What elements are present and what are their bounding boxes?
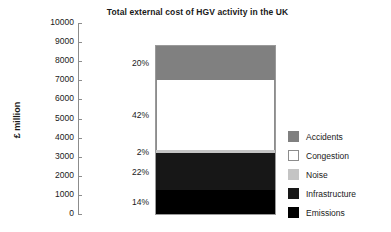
segment-percent-label: 42% <box>105 110 149 120</box>
y-axis-tick-mark <box>78 99 82 100</box>
y-axis-tick-label: 9000 <box>26 36 74 46</box>
legend-swatch-icon <box>288 150 299 161</box>
y-axis-tick-label: 2000 <box>26 170 74 180</box>
segment-percent-label: 20% <box>105 58 149 68</box>
y-axis-tick: 9000 <box>24 42 82 43</box>
bar-segment <box>156 80 275 151</box>
y-axis-tick: 5000 <box>24 119 82 120</box>
legend-label: Congestion <box>306 151 349 161</box>
legend-item[interactable]: Noise <box>288 165 356 184</box>
y-axis-tick: 1000 <box>24 195 82 196</box>
y-axis-tick: 10000 <box>24 23 82 24</box>
y-axis-tick: 3000 <box>24 157 82 158</box>
legend-item[interactable]: Emissions <box>288 203 356 222</box>
legend-swatch-icon <box>288 207 299 218</box>
legend-label: Emissions <box>306 208 345 218</box>
y-axis-label: £ million <box>12 90 22 150</box>
legend-swatch-icon <box>288 131 299 142</box>
y-axis-tick-mark <box>78 157 82 158</box>
legend-label: Accidents <box>306 132 343 142</box>
stacked-bar <box>156 46 275 214</box>
segment-percent-label: 22% <box>105 167 149 177</box>
y-axis-tick-mark <box>78 214 82 215</box>
chart-legend: AccidentsCongestionNoiseInfrastructureEm… <box>288 127 356 222</box>
y-axis-tick: 7000 <box>24 80 82 81</box>
y-axis-tick-label: 10000 <box>26 17 74 27</box>
y-axis-tick-mark <box>78 61 82 62</box>
segment-percent-label: 2% <box>105 147 149 157</box>
legend-swatch-icon <box>288 188 299 199</box>
legend-swatch-icon <box>288 169 299 180</box>
y-axis-tick-mark <box>78 176 82 177</box>
legend-label: Noise <box>306 170 328 180</box>
y-axis-tick-label: 3000 <box>26 151 74 161</box>
y-axis-tick: 2000 <box>24 176 82 177</box>
y-axis-tick-label: 0 <box>26 208 74 218</box>
bar-segment <box>156 46 275 80</box>
y-axis-tick: 4000 <box>24 138 82 139</box>
y-axis-tick-mark <box>78 195 82 196</box>
y-axis-tick-label: 7000 <box>26 74 74 84</box>
legend-item[interactable]: Infrastructure <box>288 184 356 203</box>
chart-figure: Total external cost of HGV activity in t… <box>0 0 391 232</box>
y-axis-tick-label: 6000 <box>26 93 74 103</box>
y-axis-tick-mark <box>78 138 82 139</box>
y-axis-tick-mark <box>78 119 82 120</box>
legend-item[interactable]: Congestion <box>288 146 356 165</box>
y-axis-tick-label: 4000 <box>26 132 74 142</box>
y-axis-tick-label: 1000 <box>26 189 74 199</box>
legend-label: Infrastructure <box>306 189 356 199</box>
bar-segment <box>156 153 275 190</box>
y-axis-tick: 6000 <box>24 99 82 100</box>
y-axis-tick: 8000 <box>24 61 82 62</box>
y-axis-tick-label: 5000 <box>26 113 74 123</box>
y-axis-tick-label: 8000 <box>26 55 74 65</box>
y-axis-tick-mark <box>78 80 82 81</box>
y-axis-tick-mark <box>78 42 82 43</box>
bar-segment <box>156 190 275 214</box>
segment-percent-label: 14% <box>105 197 149 207</box>
legend-item[interactable]: Accidents <box>288 127 356 146</box>
chart-title: Total external cost of HGV activity in t… <box>60 7 335 17</box>
y-axis-tick-mark <box>78 23 82 24</box>
y-axis-tick: 0 <box>24 214 82 215</box>
